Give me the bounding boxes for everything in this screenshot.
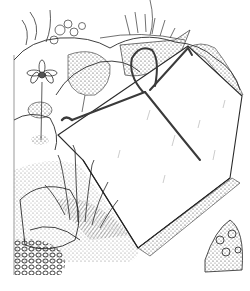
flowering-plant-bottom-right	[205, 220, 243, 272]
rosette-flower	[27, 60, 57, 84]
rock-garden-glass-cloche-illustration	[0, 0, 250, 291]
